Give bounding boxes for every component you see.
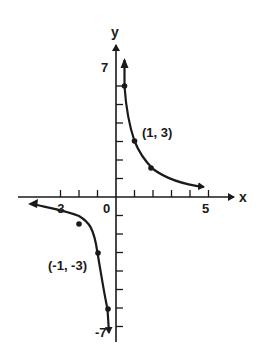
y-tick-label-7: 7 — [101, 60, 108, 75]
point-label-neg1-neg3: (-1, -3) — [48, 258, 87, 273]
hyperbola-chart: y x 7 -7 -3 0 5 (1, 3) (-1, -3) — [0, 0, 263, 354]
x-tick-label-0: 0 — [103, 201, 110, 216]
y-tick-label-neg7: -7 — [95, 325, 107, 340]
point-label-1-3: (1, 3) — [142, 125, 172, 140]
x-ticks — [61, 190, 209, 197]
x-tick-label-neg3: -3 — [53, 201, 65, 216]
right-branch-arrowhead-top — [121, 58, 129, 68]
y-axis-label: y — [111, 24, 119, 40]
curve-right-branch — [125, 60, 205, 187]
x-tick-label-5: 5 — [202, 201, 209, 216]
left-branch-arrowhead-left — [28, 199, 38, 208]
x-axis-label: x — [239, 189, 247, 205]
y-ticks — [116, 86, 123, 327]
